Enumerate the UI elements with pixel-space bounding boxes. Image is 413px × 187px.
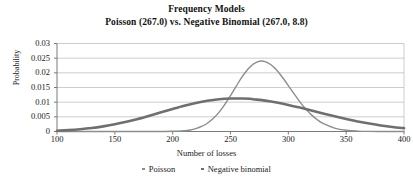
x-tick-label: 150	[95, 135, 135, 144]
x-tick-label: 200	[153, 135, 193, 144]
frequency-models-chart: Frequency Models Poisson (267.0) vs. Neg…	[0, 0, 413, 187]
y-tick-label: 0.03	[4, 39, 50, 48]
x-tick-label: 100	[37, 135, 77, 144]
legend-marker-icon	[201, 168, 204, 171]
chart-legend: PoissonNegative binomial	[0, 164, 413, 174]
y-axis-tick-labels: 00.0050.010.0150.020.0250.03	[2, 0, 50, 187]
x-tick-label: 300	[268, 135, 308, 144]
y-tick-label: 0.015	[4, 83, 50, 92]
y-tick-label: 0.01	[4, 98, 50, 107]
x-axis-label: Number of losses	[0, 148, 413, 158]
y-tick-label: 0.005	[4, 112, 50, 121]
plot-area	[0, 0, 413, 187]
legend-item: Poisson	[142, 164, 175, 174]
y-tick-label: 0.02	[4, 68, 50, 77]
legend-label: Poisson	[149, 164, 175, 174]
x-tick-label: 250	[211, 135, 251, 144]
x-tick-label: 350	[326, 135, 366, 144]
legend-label: Negative binomial	[208, 164, 271, 174]
legend-item: Negative binomial	[201, 164, 271, 174]
x-tick-label: 400	[384, 135, 413, 144]
legend-marker-icon	[142, 168, 145, 171]
plot-svg	[0, 0, 413, 187]
y-tick-label: 0.025	[4, 54, 50, 63]
